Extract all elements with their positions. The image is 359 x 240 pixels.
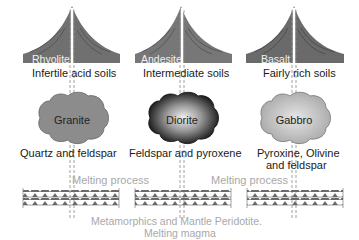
rock-label-rhyolite: Rhyolite	[32, 53, 70, 65]
rock-label-basalt: Basalt	[261, 53, 290, 65]
pluton-label-diorite: Diorite	[162, 114, 202, 126]
melting-process-label-2: Melting process	[211, 174, 288, 186]
base-caption-line1: Metamorphics and Mantle Peridotite.	[91, 215, 262, 227]
mineral-label-pyroxine-olivine: Pyroxine, Olivine	[257, 147, 340, 159]
rock-label-andesite: Andesite	[141, 53, 182, 65]
pluton-label-gabbro: Gabbro	[274, 114, 314, 126]
pluton-label-granite: Granite	[52, 114, 92, 126]
base-layer-3	[247, 188, 343, 208]
soil-label-fairly-rich: Fairly rich soils	[263, 67, 336, 79]
soil-label-infertile: Infertile acid soils	[32, 67, 116, 79]
mineral-label-feldspar-pyroxene: Feldspar and pyroxene	[129, 147, 242, 159]
mineral-label-and-feldspar: and feldspar	[266, 159, 327, 171]
melting-process-label-1: Melting process	[72, 174, 149, 186]
base-layer-1	[23, 188, 119, 208]
base-layer-2	[135, 188, 231, 208]
base-caption-line2: Melting magma	[144, 227, 216, 239]
soil-label-intermediate: Intermediate soils	[143, 67, 229, 79]
mineral-label-quartz-feldspar: Quartz and feldspar	[20, 147, 117, 159]
